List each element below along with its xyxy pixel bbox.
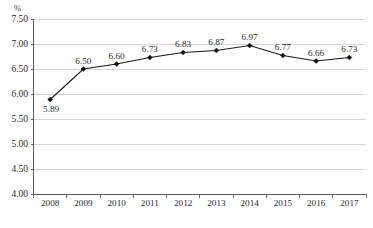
y-axis-tick-label: 4.50	[11, 164, 28, 174]
data-point-marker	[280, 53, 285, 58]
y-axis-tick-label: 4.00	[11, 189, 28, 199]
data-point-label: 6.83	[175, 39, 191, 49]
x-axis-tick-label: 2009	[74, 198, 93, 208]
y-axis-tick-label: 7.00	[11, 39, 28, 49]
data-point-label: 6.87	[208, 37, 224, 47]
y-axis-tick-label: 6.50	[11, 64, 28, 74]
figure-caption	[0, 221, 373, 228]
x-axis-tick-label: 2017	[340, 198, 359, 208]
data-point-label: 6.66	[308, 48, 324, 58]
data-point-label: 6.97	[242, 32, 258, 42]
data-point-marker	[147, 55, 152, 60]
y-axis-tick-label: 5.50	[11, 114, 28, 124]
x-axis-tick-label: 2016	[307, 198, 326, 208]
x-axis-tick-label: 2015	[274, 198, 293, 208]
x-axis-tick-labels: 2008200920102011201220132014201520162017	[41, 198, 359, 208]
x-axis-tick-label: 2013	[207, 198, 226, 208]
y-axis-tick-label: 6.00	[11, 89, 28, 99]
chart-canvas: % 7.507.006.506.005.505.004.504.00 5.896…	[0, 0, 373, 228]
x-axis-tick-label: 2014	[240, 198, 259, 208]
y-axis-tick-labels: 7.507.006.506.005.505.004.504.00	[11, 14, 28, 199]
x-axis-tick-label: 2010	[107, 198, 126, 208]
data-point-marker	[314, 59, 319, 64]
y-axis-tick-label: 5.00	[11, 139, 28, 149]
x-axis-tick-label: 2011	[141, 198, 159, 208]
data-point-label: 5.89	[43, 104, 59, 114]
line-chart-figure: % 7.507.006.506.005.505.004.504.00 5.896…	[0, 0, 373, 228]
data-series-line	[50, 46, 349, 100]
y-axis-unit-label: %	[14, 3, 21, 13]
data-point-marker	[114, 62, 119, 67]
x-axis-tick-label: 2012	[174, 198, 193, 208]
data-point-label: 6.73	[341, 44, 357, 54]
gridlines	[34, 19, 367, 169]
data-point-marker	[347, 55, 352, 60]
data-point-marker	[181, 50, 186, 55]
x-axis-tick-label: 2008	[41, 198, 60, 208]
data-point-marker	[214, 48, 219, 53]
data-point-label: 6.77	[275, 42, 291, 52]
data-point-label: 6.73	[142, 44, 158, 54]
y-axis-tick-label: 7.50	[11, 14, 28, 24]
data-point-label: 6.50	[75, 56, 91, 66]
data-point-label: 6.60	[109, 51, 125, 61]
